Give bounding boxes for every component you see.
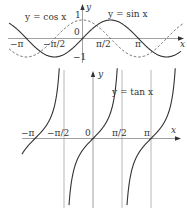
top-x-tick-neg-pi: −π [10,39,24,49]
sin-label: y = sin x [107,9,148,19]
top-y-axis-arrow-icon [80,4,84,10]
top-y-tick-1: 1 [75,10,81,20]
top-origin-label: 0 [74,27,80,37]
tan-chart: y = tan x y x −π −π/2 0 π/2 π [21,68,181,208]
top-x-tick-neg-half-pi: −π/2 [43,39,65,49]
top-y-tick-neg1: −1 [73,52,86,62]
tan-x-label: x [171,125,176,135]
tan-x-axis-arrow-icon [175,136,181,140]
tan-y-label: y [97,69,104,79]
trig-functions-figure: y = cos x y = sin x y x 1 0 −1 −π −π/2 π… [0,0,187,208]
cos-label: y = cos x [24,12,66,22]
tan-origin-label: 0 [85,128,91,138]
tan-label: y = tan x [111,87,153,97]
sin-cos-chart: y = cos x y = sin x y x 1 0 −1 −π −π/2 π… [8,2,185,63]
tan-x-tick-half-pi: π/2 [112,128,127,138]
tan-x-tick-pi: π [144,128,150,138]
tan-x-tick-neg-half-pi: −π/2 [47,128,69,138]
top-x-tick-pi: π [135,39,141,49]
top-x-label: x [180,39,185,49]
top-y-label: y [85,2,92,12]
tan-x-tick-neg-pi: −π [21,128,35,138]
tan-y-axis-arrow-icon [91,71,95,77]
top-x-tick-half-pi: π/2 [96,39,111,49]
